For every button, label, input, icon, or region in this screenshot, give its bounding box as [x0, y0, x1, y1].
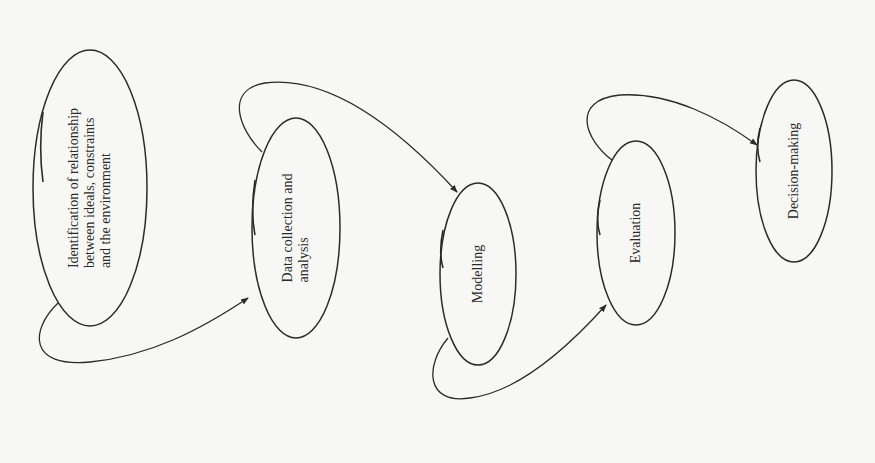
arrow-n4-to-n5	[587, 95, 757, 160]
node-label-decision-making: Decision-making	[786, 123, 802, 219]
node-text-line: Data collection and	[280, 174, 296, 283]
flow-arrows	[39, 82, 757, 399]
node-text-line: between ideals, constraints	[82, 108, 98, 268]
node-label-identification: Identification of relationship between i…	[66, 108, 114, 268]
node-text-line: Evaluation	[628, 203, 644, 264]
process-nodes	[33, 50, 832, 365]
node-text-line: and the environment	[98, 108, 114, 268]
node-label-data-collection: Data collection and analysis	[280, 174, 312, 283]
node-label-modelling: Modelling	[470, 245, 486, 303]
node-text-line: Decision-making	[786, 123, 802, 219]
node-text-line: Modelling	[470, 245, 486, 303]
ellipse-accent-strokes	[41, 112, 760, 268]
node-text-line: analysis	[296, 174, 312, 283]
node-text-line: Identification of relationship	[66, 108, 82, 268]
node-label-evaluation: Evaluation	[628, 203, 644, 264]
process-flow-diagram	[0, 0, 875, 463]
accent-stroke	[41, 112, 43, 182]
arrow-n1-to-n2	[39, 298, 248, 363]
